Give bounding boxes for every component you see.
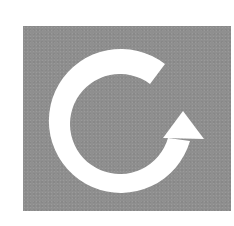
refresh-arc [49,49,190,193]
refresh-icon[interactable] [0,0,234,226]
refresh-arrowhead [163,111,204,139]
